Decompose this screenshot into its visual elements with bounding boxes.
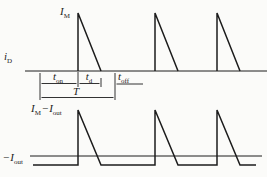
t-off-label: toff	[118, 71, 129, 85]
label-sub: on	[56, 77, 63, 85]
label-base: T	[73, 85, 79, 97]
waveform-canvas	[0, 0, 267, 177]
label-sub: out	[53, 109, 62, 117]
waveform-diagram: iD IM ton td toff T IM−Iout −Iout	[0, 0, 267, 177]
t-d-label: td	[86, 71, 93, 85]
top-pulses	[78, 13, 240, 71]
bottom-baseline-label: −Iout	[2, 152, 23, 166]
t-on-label: ton	[53, 71, 63, 85]
label-sub: D	[7, 57, 12, 65]
label-sub: M	[35, 109, 41, 117]
peak-current-label: IM	[60, 6, 70, 20]
minus-operator: −	[41, 102, 49, 114]
label-sub: d	[89, 77, 93, 85]
label-sub: off	[121, 77, 129, 85]
label-sub: out	[14, 158, 23, 166]
period-label: T	[73, 86, 79, 97]
top-axis-label: iD	[4, 51, 12, 65]
bottom-peak-label: IM−Iout	[31, 103, 62, 117]
minus-sign: −	[2, 151, 10, 163]
bottom-waveform	[33, 110, 256, 165]
label-sub: M	[64, 12, 70, 20]
